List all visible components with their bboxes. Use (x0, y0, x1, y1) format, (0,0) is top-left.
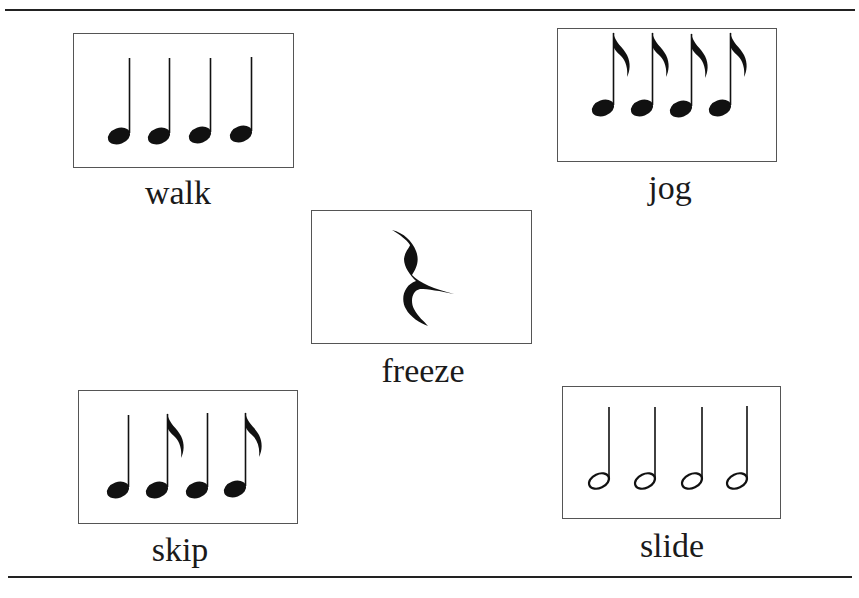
card-walk (73, 33, 294, 168)
top-rule (5, 9, 855, 11)
card-freeze (311, 210, 532, 344)
label-slide: slide (562, 529, 782, 563)
eighth-notes-icon (558, 29, 778, 163)
skip-rhythm-icon (79, 391, 299, 525)
label-jog: jog (560, 171, 780, 205)
label-walk: walk (68, 176, 288, 210)
card-skip (78, 390, 298, 524)
card-jog (557, 28, 777, 162)
label-freeze: freeze (313, 354, 533, 388)
card-slide (562, 386, 781, 519)
quarter-notes-icon (74, 34, 295, 169)
half-notes-icon (563, 387, 782, 520)
label-skip: skip (70, 533, 290, 567)
quarter-rest-icon (312, 211, 533, 345)
bottom-rule (8, 576, 852, 578)
